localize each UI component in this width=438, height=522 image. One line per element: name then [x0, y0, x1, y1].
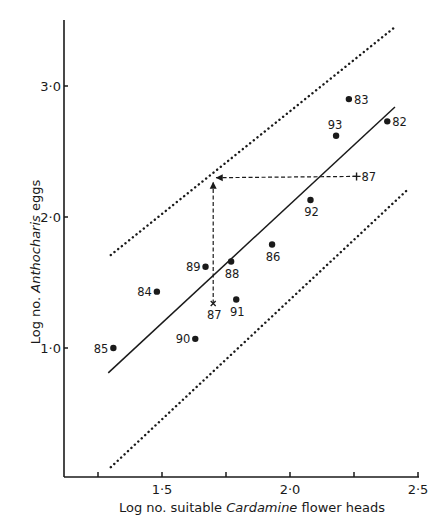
data-point: 87: [353, 170, 377, 184]
dot-marker-icon: [333, 133, 339, 139]
data-point: 83: [346, 93, 369, 107]
x-axis-title: Log no. suitable Cardamine flower heads: [119, 500, 385, 515]
data-point: 92: [304, 197, 319, 219]
scatter-chart: 1·52·02·51·02·03·0 858490898891869293838…: [0, 0, 438, 522]
point-label: 83: [354, 93, 369, 107]
point-label: 92: [304, 205, 319, 219]
point-label: 86: [266, 250, 281, 264]
arrowhead-icon: [210, 182, 217, 189]
point-label: 89: [186, 260, 201, 274]
point-label: 87: [362, 170, 377, 184]
y-tick-label: 1·0: [40, 341, 61, 356]
plus-marker-icon: [353, 172, 361, 180]
dot-marker-icon: [202, 264, 208, 270]
data-point: 93: [328, 118, 343, 139]
regression-line: [108, 107, 395, 373]
data-point: 88: [225, 258, 240, 280]
axes: 1·52·02·51·02·03·0: [40, 20, 428, 497]
dot-marker-icon: [269, 241, 275, 247]
dot-marker-icon: [192, 336, 198, 342]
annotation-arrows: [210, 174, 357, 303]
data-point: 84: [137, 285, 160, 299]
point-label: 84: [137, 285, 152, 299]
data-points: 85849089889186929383828787: [94, 93, 407, 356]
point-label: 82: [392, 115, 407, 129]
y-axis-title: Log no. Anthocharis eggs: [28, 180, 43, 345]
dot-marker-icon: [233, 296, 239, 302]
arrowhead-icon: [216, 174, 223, 181]
x-tick-label: 2·5: [408, 482, 429, 497]
y-tick-label: 2·0: [40, 210, 61, 225]
data-point: 86: [266, 241, 281, 263]
dot-marker-icon: [228, 258, 234, 264]
dot-marker-icon: [384, 118, 390, 124]
dot-marker-icon: [346, 96, 352, 102]
data-point: 87: [207, 301, 222, 323]
data-point: 89: [186, 260, 209, 274]
x-tick-label: 1·5: [152, 482, 173, 497]
point-label: 88: [225, 267, 240, 281]
point-label: 87: [207, 308, 222, 322]
data-point: 91: [230, 296, 245, 318]
point-label: 93: [328, 118, 343, 132]
dot-marker-icon: [110, 345, 116, 351]
data-point: 90: [176, 332, 199, 346]
point-label: 91: [230, 305, 245, 319]
confidence-limit-upper: [111, 27, 395, 255]
data-point: 82: [384, 115, 407, 129]
dot-marker-icon: [307, 197, 313, 203]
point-label: 85: [94, 342, 109, 356]
data-point: 85: [94, 342, 117, 356]
dot-marker-icon: [154, 288, 160, 294]
x-tick-label: 2·0: [280, 482, 301, 497]
point-label: 90: [176, 332, 191, 346]
dashed-arrow: [216, 176, 357, 177]
y-tick-label: 3·0: [40, 79, 61, 94]
